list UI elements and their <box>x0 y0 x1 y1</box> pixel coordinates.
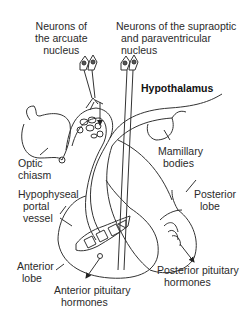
supraoptic-neurons <box>118 55 138 270</box>
supraoptic-line-3: nucleus <box>116 44 236 56</box>
posterior-hormones-line-1: Posterior pituitary <box>157 264 239 276</box>
posterior-hormones-label: Posterior pituitary hormones <box>157 264 239 288</box>
arcuate-line-1: Neurons of <box>35 20 88 32</box>
anterior-lobe-label: Anterior lobe <box>17 260 54 284</box>
optic-chiasm <box>22 106 71 163</box>
supraoptic-line-2: and paraventricular <box>116 32 236 44</box>
anterior-lobe-line-1: Anterior <box>17 260 54 272</box>
posterior-lobe <box>150 190 196 273</box>
hypothalamus-label: Hypothalamus <box>141 82 213 94</box>
arcuate-neurons <box>80 55 103 125</box>
mamillary-line-2: bodies <box>158 157 203 169</box>
portal-vessel-line-3: vessel <box>18 212 79 224</box>
optic-chiasm-line-1: Optic <box>18 157 51 169</box>
posterior-lobe-label: Posterior lobe <box>194 188 236 212</box>
posterior-lobe-line-1: Posterior <box>194 188 236 200</box>
anterior-lobe-line-2: lobe <box>17 272 54 284</box>
optic-chiasm-label: Optic chiasm <box>18 157 51 181</box>
mamillary-label: Mamillary bodies <box>158 145 203 169</box>
posterior-lobe-line-2: lobe <box>194 200 236 212</box>
anterior-hormones-line-1: Anterior pituitary <box>54 284 130 296</box>
supraoptic-label: Neurons of the supraoptic and paraventri… <box>116 20 236 56</box>
arcuate-label: Neurons of the arcuate nucleus <box>35 20 88 56</box>
arcuate-line-3: nucleus <box>35 44 88 56</box>
portal-vessel-line-2: portal <box>18 200 79 212</box>
arcuate-line-2: the arcuate <box>35 32 88 44</box>
portal-vessel-line-1: Hypophyseal <box>18 188 79 200</box>
anterior-hormones-label: Anterior pituitary hormones <box>54 284 130 308</box>
posterior-hormones-line-2: hormones <box>157 276 239 288</box>
supraoptic-line-1: Neurons of the supraoptic <box>116 20 236 32</box>
optic-chiasm-line-2: chiasm <box>18 169 51 181</box>
brain-outline <box>107 94 222 270</box>
anterior-hormones-line-2: hormones <box>54 296 130 308</box>
mamillary-line-1: Mamillary <box>158 145 203 157</box>
portal-vessel-label: Hypophyseal portal vessel <box>18 188 79 224</box>
